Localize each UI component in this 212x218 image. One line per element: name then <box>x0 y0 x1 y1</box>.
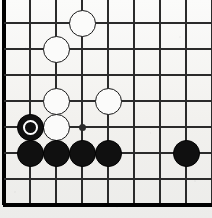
white-stone-d1[interactable] <box>69 10 96 37</box>
white-stone-c5[interactable] <box>43 114 70 141</box>
white-stone-c4[interactable] <box>43 88 70 115</box>
black-stone-c6[interactable] <box>43 140 70 167</box>
black-stone-d6[interactable] <box>69 140 96 167</box>
star-point-4-4-icon <box>79 124 86 131</box>
black-stone-h6[interactable] <box>173 140 200 167</box>
black-stone-marked-b5[interactable] <box>17 114 44 141</box>
black-stone-e6[interactable] <box>95 140 122 167</box>
black-stone-b6[interactable] <box>17 140 44 167</box>
white-stone-c2[interactable] <box>43 36 70 63</box>
white-stone-e4[interactable] <box>95 88 122 115</box>
go-board-diagram <box>0 0 212 218</box>
